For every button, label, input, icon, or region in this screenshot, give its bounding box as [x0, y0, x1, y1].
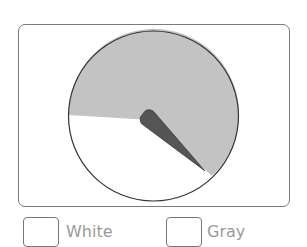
legend-swatch-gray — [166, 217, 202, 247]
legend-label-white: White — [66, 222, 113, 242]
legend-label-gray: Gray — [207, 222, 245, 242]
legend-swatch-white — [23, 217, 59, 247]
